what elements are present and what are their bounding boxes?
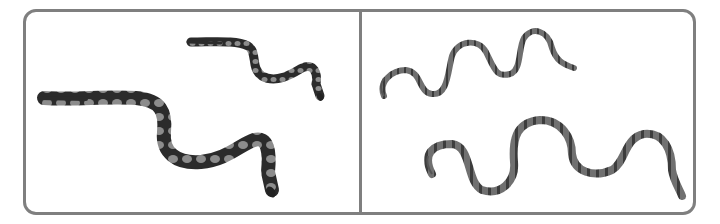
lower-banded-snake (427, 120, 682, 196)
upper-banded-snake (381, 31, 574, 96)
panel-left (26, 12, 359, 212)
panel-right (362, 12, 693, 212)
large-python (40, 97, 277, 199)
banded-snake-pair-image (362, 12, 693, 212)
figure-frame (23, 9, 696, 215)
ball-python-pair-image (26, 12, 359, 212)
small-python (188, 42, 325, 102)
